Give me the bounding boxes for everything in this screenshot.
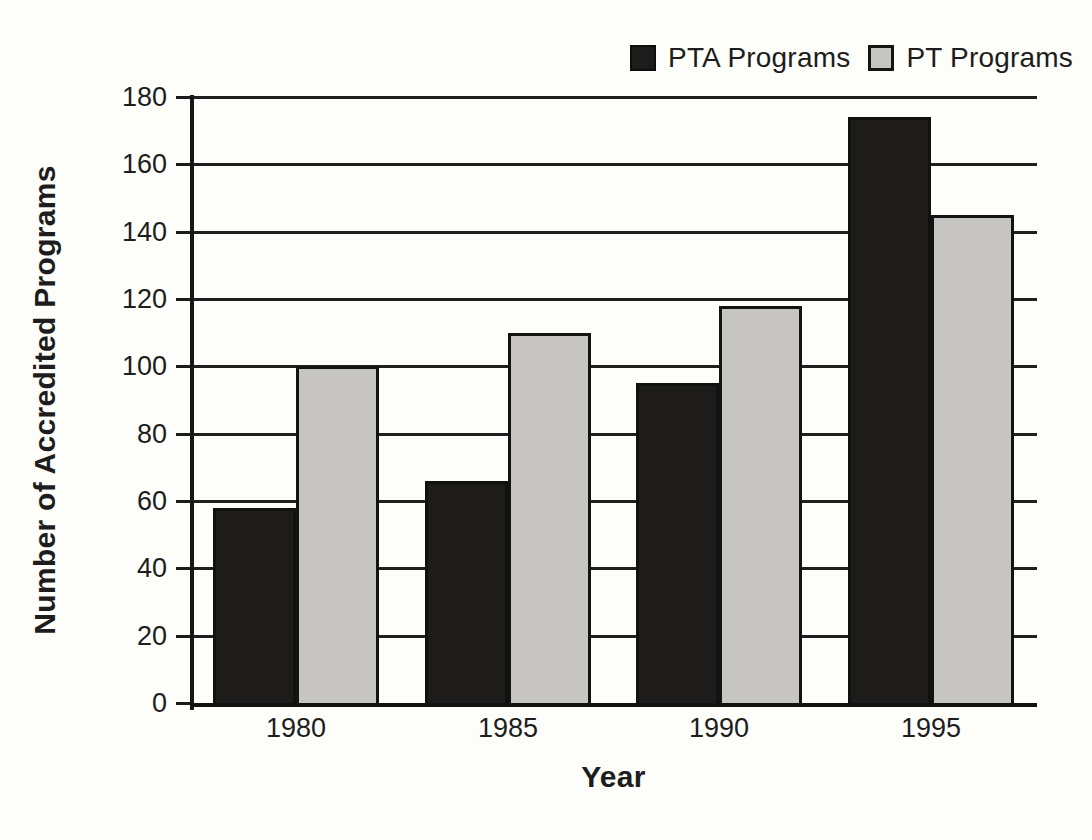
y-tick-label-100: 100	[90, 350, 167, 382]
scanned-bar-chart-page: PTA Programs PT Programs Number of Accre…	[0, 0, 1092, 840]
y-tick-label-160: 160	[90, 148, 167, 180]
y-tick-0	[176, 702, 190, 705]
x-tick-label-1980: 1980	[226, 712, 366, 744]
y-tick-label-140: 140	[90, 216, 167, 248]
y-tick-20	[176, 635, 190, 638]
y-tick-label-80: 80	[90, 418, 167, 450]
y-tick-label-20: 20	[90, 620, 167, 652]
y-tick-label-40: 40	[90, 552, 167, 584]
y-tick-180	[176, 96, 190, 99]
y-axis-line	[190, 95, 194, 710]
bar-pt-programs-1980	[296, 366, 379, 707]
x-tick-label-1985: 1985	[438, 712, 578, 744]
x-tick-label-1990: 1990	[649, 712, 789, 744]
y-tick-label-0: 0	[90, 687, 167, 719]
bar-pta-programs-1990	[636, 383, 719, 707]
y-tick-80	[176, 433, 190, 436]
bar-pt-programs-1990	[719, 306, 802, 707]
bar-pta-programs-1985	[425, 481, 508, 707]
bar-pta-programs-1995	[848, 117, 931, 707]
bar-pta-programs-1980	[213, 508, 296, 707]
gridline-180	[190, 96, 1037, 99]
y-tick-60	[176, 500, 190, 503]
y-tick-label-120: 120	[90, 283, 167, 315]
plot-area: 0204060801001201401601801980198519901995	[0, 0, 1092, 840]
y-tick-100	[176, 365, 190, 368]
y-tick-140	[176, 231, 190, 234]
y-tick-label-60: 60	[90, 485, 167, 517]
bar-pt-programs-1995	[931, 215, 1014, 707]
x-tick-label-1995: 1995	[861, 712, 1001, 744]
y-tick-160	[176, 163, 190, 166]
y-tick-120	[176, 298, 190, 301]
bar-pt-programs-1985	[508, 333, 591, 707]
x-axis-title: Year	[190, 760, 1037, 794]
x-axis-line	[190, 703, 1037, 707]
y-tick-label-180: 180	[90, 81, 167, 113]
y-tick-40	[176, 567, 190, 570]
